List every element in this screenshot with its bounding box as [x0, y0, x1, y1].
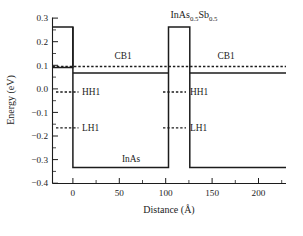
barrier-material-label-part: InAs	[170, 9, 190, 20]
y-tick-labels: 0.3 0.2 0.1 0.0 −0.1 −0.2 −0.3 −0.4	[31, 13, 48, 188]
x-major-ticks	[73, 178, 259, 184]
barrier-material-label: InAs0.5Sb0.5	[170, 9, 218, 22]
x-tick-label: 0	[71, 188, 76, 198]
y-tick-label: −0.2	[31, 131, 48, 141]
y-tick-label: −0.1	[31, 108, 48, 118]
level-label-lh1-left: LH1	[82, 123, 99, 133]
y-tick-label: 0.1	[37, 61, 49, 71]
well-material-label: InAs	[122, 154, 141, 164]
y-tick-label: 0.0	[37, 84, 49, 94]
level-label-hh1-right: HH1	[190, 87, 209, 97]
y-tick-label: −0.3	[31, 155, 48, 165]
band-diagram-figure: 0.3 0.2 0.1 0.0 −0.1 −0.2 −0.3 −0.4 0 50…	[0, 0, 303, 236]
band-diagram-svg: 0.3 0.2 0.1 0.0 −0.1 −0.2 −0.3 −0.4 0 50…	[0, 0, 303, 236]
x-tick-label: 50	[115, 188, 125, 198]
x-tick-label: 200	[252, 188, 266, 198]
barrier-material-label-part: Sb	[198, 9, 209, 20]
x-axis-title: Distance (Å)	[143, 204, 194, 216]
y-tick-label: 0.3	[37, 13, 49, 23]
level-label-lh1-right: LH1	[190, 123, 207, 133]
x-tick-label: 100	[159, 188, 173, 198]
y-tick-label: 0.2	[37, 37, 49, 47]
barrier-material-label-sub: 0.5	[209, 15, 218, 22]
y-axis-title: Energy (eV)	[5, 75, 17, 125]
level-label-cb1-left: CB1	[114, 51, 132, 61]
level-label-hh1-left: HH1	[82, 87, 101, 97]
x-tick-labels: 0 50 100 150 200	[71, 188, 266, 198]
x-tick-label: 150	[205, 188, 219, 198]
y-tick-label: −0.4	[31, 178, 48, 188]
level-label-cb1-right: CB1	[217, 51, 235, 61]
